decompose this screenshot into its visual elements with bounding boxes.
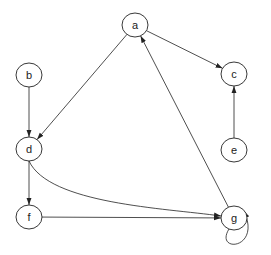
node-label: d xyxy=(26,143,32,155)
edge-g-a xyxy=(141,36,229,207)
node-g[interactable]: g xyxy=(221,206,247,230)
node-label: b xyxy=(26,69,32,81)
node-label: g xyxy=(231,212,237,224)
edge-a-c xyxy=(146,31,222,69)
edge-a-d xyxy=(37,34,127,139)
node-e[interactable]: e xyxy=(221,138,247,162)
edge-f-g xyxy=(42,217,221,218)
node-label: c xyxy=(231,68,237,80)
node-label: a xyxy=(132,19,139,31)
node-label: e xyxy=(231,144,237,156)
graph-diagram: abcdefg xyxy=(0,0,271,255)
node-c[interactable]: c xyxy=(221,62,247,86)
node-a[interactable]: a xyxy=(122,13,148,37)
node-d[interactable]: d xyxy=(16,137,42,161)
edge-d-g xyxy=(29,161,221,216)
node-b[interactable]: b xyxy=(16,63,42,87)
node-f[interactable]: f xyxy=(16,205,42,229)
